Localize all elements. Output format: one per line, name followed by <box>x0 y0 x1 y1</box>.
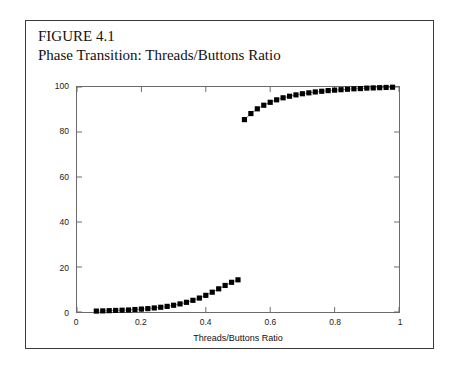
data-point <box>113 308 118 313</box>
data-point <box>248 111 253 116</box>
data-point <box>326 88 331 93</box>
data-point <box>126 307 131 312</box>
data-point <box>390 85 395 90</box>
data-point <box>152 305 157 310</box>
chart-plot-area: Size of the Largest Cluster(%) Threads/B… <box>26 69 435 350</box>
data-point <box>190 298 195 303</box>
data-point <box>242 117 247 122</box>
x-tick-label: 0.4 <box>200 317 212 327</box>
data-point <box>94 309 99 314</box>
data-point <box>107 308 112 313</box>
data-point <box>223 283 228 288</box>
data-point <box>210 290 215 295</box>
data-point <box>216 286 221 291</box>
data-point <box>165 304 170 309</box>
figure-title: Phase Transition: Threads/Buttons Ratio <box>38 46 418 65</box>
data-point <box>203 293 208 298</box>
x-tick-label: 1 <box>398 317 403 327</box>
data-point <box>235 277 240 282</box>
data-point <box>332 88 337 93</box>
figure-caption: FIGURE 4.1 Phase Transition: Threads/But… <box>38 27 418 65</box>
data-point <box>171 303 176 308</box>
figure-number: FIGURE 4.1 <box>38 27 418 46</box>
data-point <box>287 94 292 99</box>
x-tick-label: 0.6 <box>264 317 276 327</box>
data-point <box>274 97 279 102</box>
data-point <box>119 308 124 313</box>
plot-frame <box>76 86 400 313</box>
data-point <box>197 295 202 300</box>
data-point <box>268 100 273 105</box>
data-point <box>377 85 382 90</box>
data-point <box>300 91 305 96</box>
data-point <box>293 92 298 97</box>
figure-box: FIGURE 4.1 Phase Transition: Threads/But… <box>25 20 434 349</box>
data-point <box>145 306 150 311</box>
data-point <box>358 86 363 91</box>
data-point <box>313 89 318 94</box>
data-point <box>319 89 324 94</box>
data-point <box>384 85 389 90</box>
data-point <box>229 280 234 285</box>
data-point <box>100 308 105 313</box>
data-point <box>261 103 266 108</box>
data-point <box>351 86 356 91</box>
data-point <box>158 305 163 310</box>
data-point <box>345 87 350 92</box>
data-point <box>177 301 182 306</box>
x-tick-label: 0.2 <box>135 317 147 327</box>
data-point <box>371 85 376 90</box>
data-point <box>132 307 137 312</box>
data-point <box>184 300 189 305</box>
x-tick-label: 0 <box>74 317 79 327</box>
x-tick-label: 0.8 <box>329 317 341 327</box>
data-series-layer <box>77 87 399 312</box>
data-point <box>338 87 343 92</box>
data-point <box>139 306 144 311</box>
data-point <box>280 95 285 100</box>
data-point <box>255 106 260 111</box>
data-point <box>306 90 311 95</box>
data-point <box>364 86 369 91</box>
